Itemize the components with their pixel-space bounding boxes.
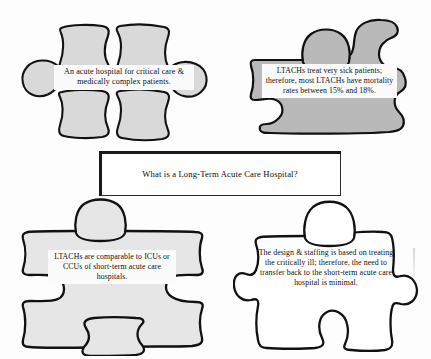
center-question-text: What is a Long-Term Acute Care Hospital? xyxy=(100,169,340,179)
scan-artifact xyxy=(413,248,415,282)
puzzle-piece-top-left[interactable]: An acute hospital for critical care & me… xyxy=(16,22,216,142)
puzzle-diagram-page: An acute hospital for critical care & me… xyxy=(0,0,431,359)
puzzle-piece-top-right[interactable]: LTACHs treat very sick patients; therefo… xyxy=(243,16,415,140)
puzzle-piece-top-right-caption: LTACHs treat very sick patients; therefo… xyxy=(262,64,397,98)
puzzle-piece-bottom-right[interactable]: The design & staffing is based on treati… xyxy=(233,196,419,356)
puzzle-piece-top-left-caption: An acute hospital for critical care & me… xyxy=(54,65,194,90)
puzzle-piece-bottom-right-caption: The design & staffing is based on treati… xyxy=(255,246,397,290)
puzzle-piece-bottom-left[interactable]: LTACHs are comparable to ICUs or CCUs of… xyxy=(14,198,216,356)
puzzle-piece-bottom-left-caption: LTACHs are comparable to ICUs or CCUs of… xyxy=(48,250,176,284)
center-question-box[interactable]: What is a Long-Term Acute Care Hospital? xyxy=(99,151,341,196)
